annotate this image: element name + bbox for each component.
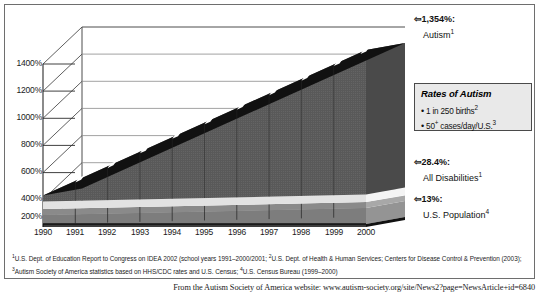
x-tick-1993: 1993 [124,227,156,237]
x-tick-1996: 1996 [221,227,253,237]
chart-plot-area: 1400% 1200% 1000% 800% 600% 400% 200% 19… [5,5,405,237]
x-tick-1990: 1990 [27,227,59,237]
y-tick-1000: 1000% [8,112,42,122]
x-tick-1998: 1998 [285,227,317,237]
rates-of-autism-box: Rates of Autism • 1 in 250 births2 • 50+… [414,83,532,131]
x-tick-1999: 1999 [318,227,350,237]
callout-us-population-label: U.S. Population [423,210,486,220]
rates-box-item-1-text: 1 in 250 births [426,107,474,116]
y-tick-200: 200% [8,211,42,221]
callout-us-population: ⇦13%: U.S. Population4 [414,194,489,221]
callout-autism-label: Autism [423,30,451,40]
footnote-4-text: U.S. Census Bureau (1999–2000) [243,268,338,275]
x-tick-1997: 1997 [253,227,285,237]
rates-box-item-1: • 1 in 250 births2 [421,102,525,117]
rates-box-item-2: • 50+ cases/day/U.S.3 [421,117,525,132]
footnote-1-text: U.S. Dept. of Education Report to Congre… [15,255,267,262]
y-tick-1200: 1200% [8,85,42,95]
source-attribution: From the Autism Society of America websi… [0,283,535,292]
callout-us-population-footnote: 4 [486,208,490,215]
rates-box-item-2-text2: cases/day/U.S. [438,121,492,130]
callout-all-disabilities-footnote: 1 [479,171,483,178]
rates-box-item-1-footnote: 2 [474,104,477,111]
y-tick-1400: 1400% [8,58,42,68]
band-autism [43,43,405,202]
callout-us-population-value: 13%: [422,194,443,204]
rates-box-item-2-footnote: 3 [493,119,496,126]
callout-autism-footnote: 1 [451,28,455,35]
x-tick-1995: 1995 [188,227,220,237]
x-tick-2000: 2000 [350,227,382,237]
chart-frame: 1400% 1200% 1000% 800% 600% 400% 200% 19… [4,4,535,279]
footnote-2-text: U.S. Dept. of Health & Human Services; C… [271,255,440,262]
arrow-left-icon: ⇦ [414,14,422,24]
stacked-area-3d-chart [5,5,405,237]
y-tick-800: 800% [8,139,42,149]
y-tick-400: 400% [8,193,42,203]
chart-screenshot: 1400% 1200% 1000% 800% 600% 400% 200% 19… [0,0,539,300]
footnotes: 1U.S. Dept. of Education Report to Congr… [12,251,528,277]
callout-all-disabilities: ⇦28.4%: All Disabilities1 [414,157,482,184]
footnote-2-text-cont: Control & Prevention (2003); [442,255,522,262]
rates-box-item-2-text: 50 [426,121,435,130]
rates-box-title: Rates of Autism [421,88,525,99]
bullet-icon: • [421,120,424,130]
y-tick-600: 600% [8,166,42,176]
callout-all-disabilities-value: 28.4%: [422,157,451,167]
x-tick-1994: 1994 [156,227,188,237]
arrow-left-icon: ⇦ [414,194,422,204]
x-tick-1992: 1992 [91,227,123,237]
footnote-3-text: Autism Society of America statistics bas… [15,268,239,275]
callout-autism-value: 1,354%: [422,14,456,24]
x-tick-1991: 1991 [59,227,91,237]
arrow-left-icon: ⇦ [414,157,422,167]
callout-all-disabilities-label: All Disabilities [423,173,479,183]
bullet-icon: • [421,106,424,116]
callout-autism: ⇦1,354%: Autism1 [414,14,455,41]
